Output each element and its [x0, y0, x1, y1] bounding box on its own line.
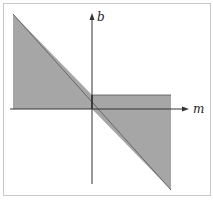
strip-region — [92, 95, 171, 109]
m-axis-label: m — [193, 102, 204, 116]
diagram: m b — [0, 0, 213, 200]
b-axis-label: b — [97, 10, 105, 24]
